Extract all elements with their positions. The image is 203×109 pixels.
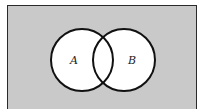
- set-b-label: B: [127, 54, 136, 67]
- set-a-label: A: [69, 54, 78, 67]
- venn-diagram: A B: [0, 0, 203, 109]
